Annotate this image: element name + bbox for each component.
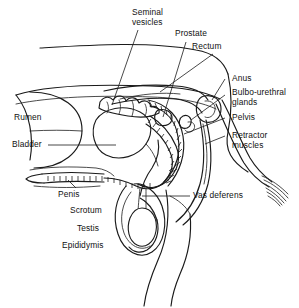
label-pelvis: Pelvis [232,113,255,123]
bladder-neck [146,144,158,166]
penis-shaft-upper [42,173,104,175]
prepuce-outline [30,167,114,176]
label-seminal-vesicles-line1: Seminal [132,7,163,17]
penile-urethra-beading [48,176,150,189]
seminal-vesicle-lobule-4 [145,104,147,116]
label-testis: Testis [77,224,99,234]
label-retractor-muscles-line1: Retractor [232,130,267,140]
label-rumen: Rumen [14,113,42,123]
anus-group [196,96,221,123]
testis-group [128,208,156,246]
penis-glans [26,174,44,183]
label-retractor-muscles: Retractor muscles [232,131,294,150]
tail-hair-tuft [262,176,288,206]
label-bulbo-urethral-glands: Bulbo-urethral glands [232,88,298,107]
retractor-muscles-group [176,120,211,225]
penis-group [26,167,168,189]
leader-retractor-muscles [205,136,225,144]
label-penis: Penis [58,190,79,200]
label-scrotum: Scrotum [70,206,102,216]
label-bulbo-urethral-line2: glands [232,97,257,107]
prepuce-lower [34,186,100,188]
anatomical-figure: Seminal vesicles Prostate Rectum Anus Bu… [0,0,299,308]
label-vas-deferens: Vas deferens [193,191,243,201]
leader-seminal-vesicles [112,30,138,105]
label-prostate: Prostate [175,29,207,39]
label-retractor-muscles-line2: muscles [232,140,263,150]
diagram-canvas [0,0,299,308]
chest-outline [16,95,31,160]
testis-outline [128,208,156,246]
rumen-group [30,92,82,168]
label-anus: Anus [232,74,252,84]
label-bladder: Bladder [12,140,42,150]
penis-shaft-lower [44,181,104,183]
leader-rectum [160,54,213,92]
label-bulbo-urethral-line1: Bulbo-urethral [232,87,286,97]
hind-leg-far [171,214,191,306]
leader-prostate [163,42,186,117]
label-epididymis: Epididymis [62,241,104,251]
label-seminal-vesicles: Seminal vesicles [132,8,194,27]
label-rectum: Rectum [192,42,221,52]
anus-outline [196,96,221,123]
rumen-inner-line [30,130,82,131]
label-seminal-vesicles-line2: vesicles [132,17,163,27]
